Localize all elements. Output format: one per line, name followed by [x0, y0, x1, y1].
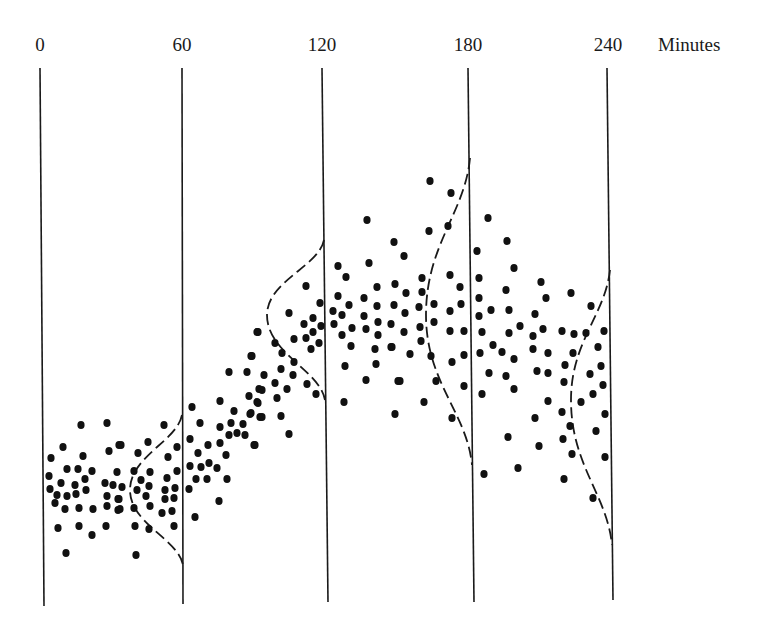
data-point — [316, 299, 323, 307]
data-point — [460, 351, 467, 359]
data-point — [130, 504, 137, 512]
data-point — [105, 447, 112, 455]
data-point — [560, 378, 567, 386]
data-point — [460, 382, 467, 390]
data-point — [109, 481, 116, 489]
data-point — [46, 485, 53, 493]
data-point — [203, 475, 210, 483]
data-point — [577, 398, 584, 406]
data-point — [529, 332, 536, 340]
data-point — [171, 484, 178, 492]
time-axis-labels: 0 60 120 180 240 Minutes — [35, 34, 720, 55]
data-point — [446, 307, 453, 315]
data-point — [558, 408, 565, 416]
data-point — [338, 331, 345, 339]
data-point — [347, 342, 354, 350]
data-point — [560, 475, 567, 483]
data-point — [401, 309, 408, 317]
data-point — [582, 329, 589, 337]
data-point — [145, 525, 152, 533]
data-point — [47, 454, 54, 462]
data-point — [160, 421, 167, 429]
data-point — [317, 322, 324, 330]
data-point — [391, 410, 398, 418]
data-point — [363, 216, 370, 224]
data-point — [345, 301, 352, 309]
data-point — [283, 385, 290, 393]
data-point — [503, 237, 510, 245]
data-point — [103, 492, 110, 500]
data-point — [307, 345, 314, 353]
data-point — [215, 497, 222, 505]
distribution-curves — [130, 158, 612, 565]
data-point — [103, 502, 110, 510]
data-point — [544, 369, 551, 377]
data-point — [406, 350, 413, 358]
data-point — [373, 302, 380, 310]
data-point — [168, 507, 175, 515]
data-point — [586, 370, 593, 378]
data-point — [290, 335, 297, 343]
data-point — [362, 376, 369, 384]
data-point — [544, 349, 551, 357]
data-point — [599, 381, 606, 389]
data-point — [113, 468, 120, 476]
data-point — [402, 289, 409, 297]
data-point — [146, 468, 153, 476]
data-point — [535, 442, 542, 450]
data-point — [531, 414, 538, 422]
data-point — [192, 475, 199, 483]
data-point — [273, 394, 280, 402]
data-point — [173, 443, 180, 451]
data-point — [425, 227, 432, 235]
time-label-120: 120 — [308, 34, 337, 55]
data-point — [131, 522, 138, 530]
data-point — [510, 264, 517, 272]
data-point — [302, 282, 309, 290]
data-point — [330, 320, 337, 328]
data-point — [204, 441, 211, 449]
data-point — [569, 349, 576, 357]
data-point — [566, 422, 573, 430]
data-point — [390, 301, 397, 309]
data-point — [248, 352, 255, 360]
data-point — [117, 441, 124, 449]
data-point — [432, 377, 439, 385]
data-point — [61, 505, 68, 513]
data-point — [502, 372, 509, 380]
data-point — [533, 367, 540, 375]
time-line-60 — [182, 68, 183, 604]
data-point — [312, 390, 319, 398]
data-point — [188, 403, 195, 411]
data-point — [400, 328, 407, 336]
data-point — [260, 371, 267, 379]
time-line-0 — [40, 68, 44, 606]
data-point — [315, 339, 322, 347]
data-point — [537, 278, 544, 286]
data-point — [484, 214, 491, 222]
data-point — [302, 334, 309, 342]
data-point — [57, 479, 64, 487]
data-point — [101, 479, 108, 487]
data-point — [374, 318, 381, 326]
data-point — [498, 348, 505, 356]
data-point — [245, 392, 252, 400]
data-point — [205, 459, 212, 467]
data-point — [258, 413, 265, 421]
data-point — [510, 385, 517, 393]
data-point — [225, 368, 232, 376]
time-line-180 — [468, 68, 474, 602]
data-point — [487, 306, 494, 314]
data-point — [161, 486, 168, 494]
data-point — [130, 467, 137, 475]
data-point — [531, 310, 538, 318]
data-point — [544, 397, 551, 405]
data-point — [561, 361, 568, 369]
data-point — [592, 427, 599, 435]
data-point — [277, 365, 284, 373]
data-point — [75, 522, 82, 530]
data-point — [430, 300, 437, 308]
data-point — [137, 476, 144, 484]
data-point — [391, 280, 398, 288]
data-point — [418, 274, 425, 282]
